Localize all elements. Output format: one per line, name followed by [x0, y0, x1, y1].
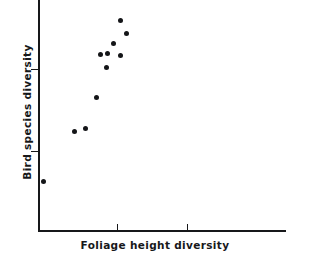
data-point — [98, 52, 103, 57]
data-point — [118, 18, 123, 23]
y-axis-label: Bird species diversity — [21, 32, 33, 192]
data-point — [124, 31, 129, 36]
data-point — [104, 65, 109, 70]
x-axis-line — [38, 230, 286, 232]
data-point — [41, 179, 46, 184]
data-point — [94, 95, 99, 100]
data-point — [72, 129, 77, 134]
y-axis-line — [38, 0, 40, 232]
scatter-plot-figure: Foliage height diversity Bird species di… — [0, 0, 310, 263]
data-point — [111, 41, 116, 46]
data-point — [83, 126, 88, 131]
data-point — [118, 53, 123, 58]
x-axis-tick — [187, 224, 188, 231]
x-axis-label: Foliage height diversity — [0, 239, 310, 251]
x-axis-tick — [117, 224, 118, 231]
data-point — [105, 51, 110, 56]
